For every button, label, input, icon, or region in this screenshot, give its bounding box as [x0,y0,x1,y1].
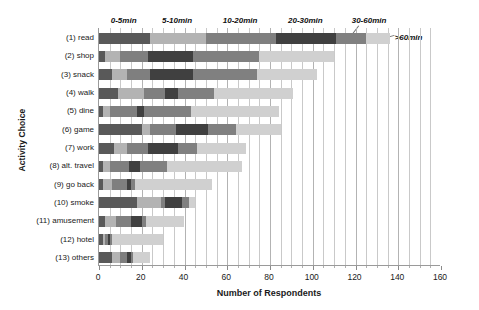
bar-segment[interactable] [105,51,120,62]
bar-segment[interactable] [257,69,317,80]
x-axis-tick [356,266,357,270]
bar-segment[interactable] [110,161,129,172]
bar-segment[interactable] [167,161,242,172]
bar-segment[interactable] [214,88,293,99]
bar-segment[interactable] [276,33,336,44]
bar-segment[interactable] [191,106,279,117]
bar-row[interactable] [99,216,184,227]
bar-segment[interactable] [105,216,116,227]
bar-segment[interactable] [129,161,140,172]
bar-segment[interactable] [131,216,142,227]
x-axis-tick-label: 120 [347,272,361,282]
bar-segment[interactable] [208,124,236,135]
y-axis-category-label: (1) read [0,34,99,42]
bar-segment[interactable] [165,88,178,99]
bar-segment[interactable] [165,197,182,208]
bar-segment[interactable] [178,88,214,99]
bar-segment[interactable] [127,69,151,80]
bar-segment[interactable] [144,88,165,99]
bar-row[interactable] [99,179,212,190]
bar-segment[interactable] [114,143,127,154]
bar-segment[interactable] [142,124,151,135]
bar-segment[interactable] [116,216,131,227]
gridline [323,28,324,265]
gridline [281,28,282,265]
bar-segment[interactable] [197,143,246,154]
y-axis-category-label: (13) others [0,254,99,262]
gridline [409,28,410,265]
x-axis-tick-label: 80 [264,272,273,282]
gridline [291,28,292,265]
gridline [388,28,389,265]
legend-label-10-20min: 10-20min [223,16,258,25]
x-axis-minor-tick [323,266,324,268]
y-axis-category-label: (10) smoke [0,199,99,207]
bar-segment[interactable] [99,197,137,208]
bar-segment[interactable] [135,179,212,190]
x-axis-tick-label: 40 [179,272,188,282]
bar-segment[interactable] [189,197,195,208]
bar-row[interactable] [99,124,281,135]
bar-segment[interactable] [137,197,161,208]
y-axis-category-label: (11) amusement [0,217,99,225]
bar-segment[interactable] [236,124,281,135]
bar-segment[interactable] [193,51,259,62]
bar-segment[interactable] [99,33,150,44]
bar-segment[interactable] [178,143,197,154]
bar-segment[interactable] [259,51,334,62]
x-axis-title: Number of Respondents [98,288,440,298]
x-axis-tick [313,266,314,270]
bar-segment[interactable] [140,161,168,172]
bar-segment[interactable] [176,124,208,135]
bar-segment[interactable] [206,33,277,44]
bar-segment[interactable] [144,106,191,117]
bar-segment[interactable] [110,106,138,117]
bar-segment[interactable] [150,69,193,80]
bar-row[interactable] [99,51,334,62]
bar-row[interactable] [99,69,317,80]
bar-row[interactable] [99,33,390,44]
bar-segment[interactable] [148,51,193,62]
bar-row[interactable] [99,234,163,245]
gridline [356,28,357,265]
legend-label-20-30min: 20-30min [288,16,323,25]
gridline [302,28,303,265]
bar-segment[interactable] [120,51,148,62]
x-axis-tick [398,266,399,270]
x-axis-minor-tick [345,266,346,268]
bar-segment[interactable] [146,216,184,227]
x-axis-tick [227,266,228,270]
bar-segment[interactable] [193,69,257,80]
bar-segment[interactable] [112,252,121,263]
bar-row[interactable] [99,106,279,117]
bar-segment[interactable] [133,252,150,263]
bar-segment[interactable] [150,33,206,44]
bar-segment[interactable] [127,143,148,154]
bar-row[interactable] [99,88,293,99]
bar-segment[interactable] [366,33,390,44]
x-axis-tick-label: 60 [222,272,231,282]
bar-row[interactable] [99,161,242,172]
bar-segment[interactable] [99,252,112,263]
bar-segment[interactable] [99,69,112,80]
bar-segment[interactable] [99,143,114,154]
bar-segment[interactable] [336,33,366,44]
bar-segment[interactable] [150,124,176,135]
bar-segment[interactable] [99,124,142,135]
bar-segment[interactable] [112,234,163,245]
gridline [366,28,367,265]
x-axis-tick-label: 20 [136,272,145,282]
bar-row[interactable] [99,197,195,208]
x-axis-minor-tick [249,266,250,268]
bar-segment[interactable] [112,69,127,80]
x-axis-minor-tick [302,266,303,268]
bar-segment[interactable] [148,143,178,154]
bar-segment[interactable] [118,88,144,99]
bar-segment[interactable] [103,179,112,190]
x-axis-tick [99,266,100,270]
bar-row[interactable] [99,143,246,154]
bar-segment[interactable] [99,88,118,99]
bar-row[interactable] [99,252,150,263]
legend-label-0-5min: 0-5min [111,16,137,25]
bar-segment[interactable] [112,179,127,190]
